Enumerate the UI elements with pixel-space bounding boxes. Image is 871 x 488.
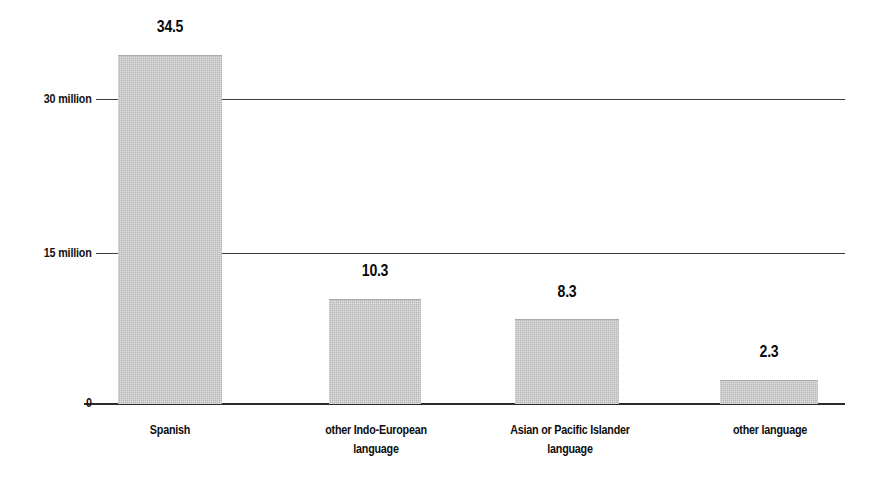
- category-label-line1: Asian or Pacific Islander: [510, 423, 629, 437]
- category-label-line2: language: [307, 440, 445, 459]
- category-label-other-language: other language: [710, 421, 830, 440]
- bar-other-indo-european-language: [329, 299, 421, 404]
- bar-value-label: 10.3: [329, 262, 421, 280]
- category-label-line1: other Indo-European: [325, 423, 427, 437]
- y-axis-tick-30-million: 30 million: [0, 92, 92, 108]
- gridline-30-million: [118, 99, 845, 100]
- y-axis-tick-15-million: 15 million: [0, 246, 92, 262]
- bar-value-label: 34.5: [124, 18, 216, 36]
- category-label-line1: other language: [733, 423, 807, 437]
- bar-asian-or-pacific-islander-language: [515, 319, 619, 404]
- bar-spanish: [118, 55, 222, 404]
- bar-other-language: [720, 380, 818, 404]
- bar-value-label: 8.3: [521, 283, 613, 301]
- tick-mark-30-million: [96, 99, 118, 100]
- category-label-line1: Spanish: [150, 423, 190, 437]
- bar-value-label: 2.3: [723, 343, 815, 361]
- y-axis-tick-0: 0: [0, 396, 92, 412]
- tick-mark-15-million: [96, 253, 118, 254]
- bar-chart: 30 million 15 million 0 34.5 Spanish 10.…: [0, 0, 871, 488]
- y-axis-tick-label: 30 million: [44, 92, 92, 106]
- y-axis-tick-label: 0: [86, 396, 92, 410]
- gridline-15-million: [118, 253, 845, 254]
- category-label-other-indo-european-language: other Indo-European language: [307, 421, 445, 459]
- category-label-asian-or-pacific-islander-language: Asian or Pacific Islander language: [499, 421, 642, 459]
- category-label-line2: language: [499, 440, 642, 459]
- category-label-spanish: Spanish: [110, 421, 230, 440]
- y-axis-tick-label: 15 million: [44, 246, 92, 260]
